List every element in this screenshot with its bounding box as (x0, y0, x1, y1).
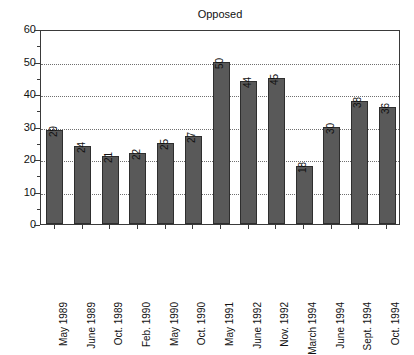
bar-value-label: 25 (160, 139, 170, 150)
bar-value-label: 44 (243, 77, 253, 88)
chart-title: Opposed (40, 8, 400, 21)
bar (323, 127, 340, 225)
bar (185, 136, 202, 224)
bar-value-label: 22 (132, 148, 142, 159)
x-axis-tick (303, 225, 304, 229)
bar-value-label: 50 (215, 57, 225, 68)
y-axis-tick-label: 50 (6, 57, 36, 68)
bar-value-label: 18 (298, 161, 308, 172)
x-axis-tick-label: June 1994 (336, 302, 346, 349)
x-axis-tick (109, 225, 110, 229)
bar (268, 78, 285, 224)
y-axis-tick-label: 60 (6, 24, 36, 35)
x-axis-tick-label: Nov. 1992 (280, 302, 290, 347)
y-axis-tick-label: 40 (6, 89, 36, 100)
bar-value-label: 45 (270, 74, 280, 85)
bar (379, 107, 396, 224)
bar (213, 62, 230, 225)
y-axis-tick-label: 10 (6, 187, 36, 198)
x-axis-tick-label: June 1992 (253, 302, 263, 349)
x-axis-tick (386, 225, 387, 229)
x-axis-tick (192, 225, 193, 229)
x-axis-tick-label: Oct. 1989 (114, 302, 124, 345)
x-axis-tick (82, 225, 83, 229)
x-axis-tick-label: March 1994 (308, 302, 318, 355)
x-axis-tick (358, 225, 359, 229)
x-axis-tick (137, 225, 138, 229)
x-axis-tick-label: June 1989 (87, 302, 97, 349)
bar-value-label: 38 (353, 96, 363, 107)
x-axis-tick (275, 225, 276, 229)
x-axis-tick-label: May 1989 (59, 302, 69, 346)
y-axis-tick-label: 30 (6, 122, 36, 133)
bar (296, 166, 313, 225)
y-axis-tick (34, 225, 40, 226)
x-axis-tick-label: Oct. 1990 (197, 302, 207, 345)
bar (240, 81, 257, 224)
x-axis-tick-label: Sept. 1994 (363, 302, 373, 350)
x-axis-tick (220, 225, 221, 229)
bar (46, 130, 63, 224)
y-axis-tick-label: 20 (6, 154, 36, 165)
x-axis-tick (331, 225, 332, 229)
bar-value-label: 36 (381, 103, 391, 114)
y-axis-tick-label: 0 (6, 219, 36, 230)
x-axis-tick-label: May 1990 (170, 302, 180, 346)
x-axis-tick-label: May 1991 (225, 302, 235, 346)
bar-value-label: 30 (326, 122, 336, 133)
x-axis-tick-label: Oct. 1994 (391, 302, 401, 345)
bar (351, 101, 368, 225)
bar (157, 143, 174, 224)
x-axis-tick (248, 225, 249, 229)
bar-value-label: 21 (104, 152, 114, 163)
bar (129, 153, 146, 225)
x-axis-tick (54, 225, 55, 229)
x-axis-tick (165, 225, 166, 229)
bar-value-label: 24 (77, 142, 87, 153)
bar-value-label: 29 (49, 126, 59, 137)
bar-value-label: 27 (187, 132, 197, 143)
bar (102, 156, 119, 224)
x-axis-tick-label: Feb. 1990 (142, 302, 152, 347)
bar (74, 146, 91, 224)
